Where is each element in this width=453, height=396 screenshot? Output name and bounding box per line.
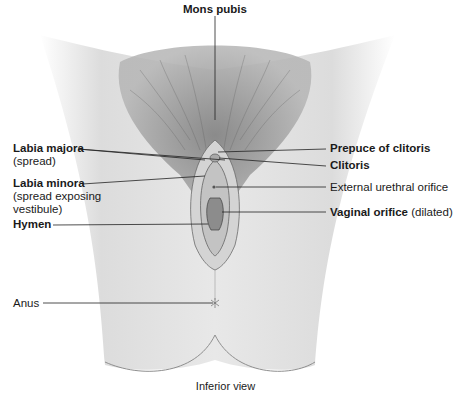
label-hymen-text: Hymen — [13, 218, 51, 230]
label-labia-minora-note-2: vestibule) — [13, 203, 101, 216]
view-caption: Inferior view — [0, 380, 451, 392]
label-vaginal-title: Vaginal orifice — [330, 206, 408, 218]
label-clitoris-text: Clitoris — [330, 159, 370, 171]
vaginal-orifice-shape — [207, 198, 224, 230]
label-labia-majora-title: Labia majora — [13, 142, 84, 155]
label-external-urethral-orifice: External urethral orifice — [330, 181, 448, 194]
label-mons-pubis: Mons pubis — [183, 3, 247, 16]
label-labia-majora-note: (spread) — [13, 155, 84, 168]
label-labia-majora: Labia majora (spread) — [13, 142, 84, 168]
label-mons-pubis-text: Mons pubis — [183, 3, 247, 15]
label-labia-minora-note-1: (spread exposing — [13, 190, 101, 203]
label-labia-minora-title: Labia minora — [13, 177, 101, 190]
label-vaginal-note: (dilated) — [411, 206, 453, 218]
label-anus-text: Anus — [13, 297, 39, 309]
urethral-orifice-shape — [212, 185, 215, 188]
label-anus: Anus — [13, 297, 39, 310]
label-hymen: Hymen — [13, 218, 51, 231]
label-clitoris: Clitoris — [330, 159, 370, 172]
label-prepuce-of-clitoris: Prepuce of clitoris — [330, 142, 430, 155]
label-urethral-text: External urethral orifice — [330, 181, 448, 193]
label-prepuce-text: Prepuce of clitoris — [330, 142, 430, 154]
clitoris-shape — [210, 154, 220, 162]
label-vaginal-orifice: Vaginal orifice (dilated) — [330, 206, 453, 219]
label-labia-minora: Labia minora (spread exposing vestibule) — [13, 177, 101, 216]
